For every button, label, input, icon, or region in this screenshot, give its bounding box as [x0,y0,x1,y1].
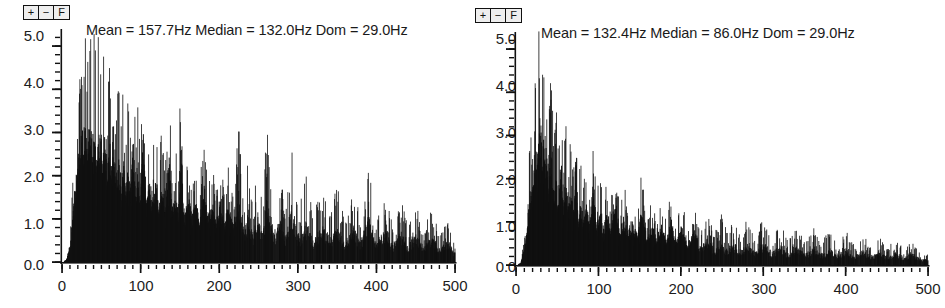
left-spectrum-panel: + − F Mean = 157.7Hz Median = 132.0Hz Do… [0,0,472,308]
x-tick-label: 300 [751,281,776,296]
x-tick-label: 400 [833,281,858,296]
left-spectrum-plot [0,0,472,308]
right-spectrum-plot [472,0,945,308]
x-tick-label: 500 [442,278,467,293]
spectrum-panels-container: + − F Mean = 157.7Hz Median = 132.0Hz Do… [0,0,945,308]
x-tick-label: 200 [668,281,693,296]
x-tick-label: 300 [285,278,310,293]
x-tick-label: 0 [58,278,66,293]
right-spectrum-panel: + − F Mean = 132.4Hz Median = 86.0Hz Dom… [472,0,945,308]
x-tick-label: 500 [915,281,940,296]
x-tick-label: 400 [363,278,388,293]
x-tick-label: 200 [206,278,231,293]
x-tick-label: 100 [128,278,153,293]
x-tick-label: 0 [512,281,520,296]
x-tick-label: 100 [586,281,611,296]
